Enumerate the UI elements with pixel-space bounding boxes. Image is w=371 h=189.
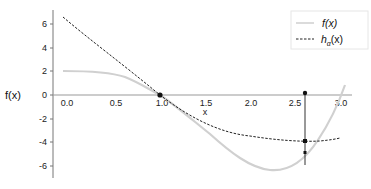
root-point: [157, 92, 162, 97]
axis-point: [303, 91, 307, 95]
y-ticks: 6 4 2 0 -2 -4 -6: [39, 19, 53, 171]
f-point: [304, 151, 307, 154]
f-curve: [63, 71, 345, 170]
x-axis-label: x: [203, 107, 208, 117]
x-tick-label: 2.5: [289, 98, 302, 108]
y-tick-label: 6: [42, 19, 47, 29]
x-tick-label: 0.0: [61, 98, 74, 108]
x-tick-label: 2.0: [245, 98, 258, 108]
y-tick-label: -2: [39, 114, 47, 124]
y-tick-label: 2: [42, 66, 47, 76]
chart: 6 4 2 0 -2 -4 -6 0.0 0.5 1.0 1.5 2.0 2.5…: [0, 0, 371, 189]
x-tick-label: 0.5: [110, 98, 123, 108]
y-tick-label: -6: [39, 161, 47, 171]
legend: f(x) hα(x): [291, 11, 368, 49]
y-tick-label: 4: [42, 43, 47, 53]
legend-f-label: f(x): [322, 17, 337, 29]
legend-h-label: hα(x): [321, 33, 343, 47]
y-tick-label: 0: [42, 90, 47, 100]
y-tick-label: -4: [39, 137, 47, 147]
y-axis-label: f(x): [5, 89, 21, 101]
h-point: [303, 139, 307, 143]
